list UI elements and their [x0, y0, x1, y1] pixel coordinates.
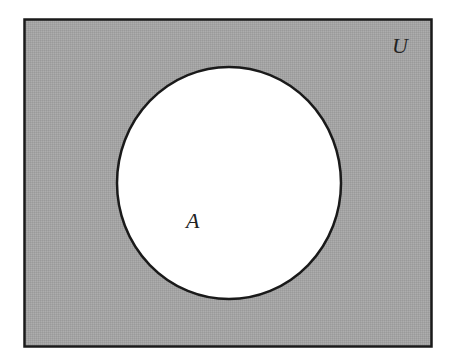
set-a-label: A [184, 208, 200, 233]
set-a-circle [117, 67, 341, 299]
venn-diagram: U A [0, 0, 453, 362]
universe-label: U [392, 33, 410, 58]
